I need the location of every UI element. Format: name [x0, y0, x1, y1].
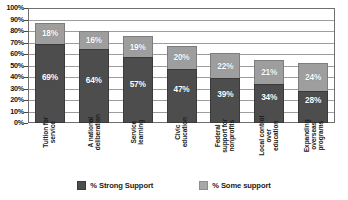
- y-axis-tick-label: 100%: [6, 4, 24, 11]
- x-axis-category-label: Local controlovereducation: [245, 125, 293, 171]
- bar-value-label: 24%: [305, 73, 321, 82]
- bar-value-label: 34%: [261, 93, 277, 102]
- y-axis: 0%10%20%30%40%50%60%70%80%90%100%: [0, 0, 28, 131]
- y-axis-tick-label: 30%: [10, 85, 24, 92]
- bar-group[interactable]: 24%28%: [298, 63, 328, 123]
- bar-segment-some-support[interactable]: 16%: [79, 31, 109, 49]
- x-axis-label-line: Expanding: [302, 119, 309, 152]
- x-axis-category-label: Civiceducation: [158, 125, 206, 171]
- x-axis-category-label: Expandingoverseasprograms: [289, 125, 337, 171]
- legend-swatch-strong: [77, 181, 86, 190]
- bar-value-label: 16%: [86, 36, 102, 45]
- bar-segment-some-support[interactable]: 22%: [210, 53, 240, 78]
- x-axis-label-line: overseas: [309, 119, 316, 152]
- bar-segment-some-support[interactable]: 18%: [35, 23, 65, 44]
- bar-group[interactable]: 20%47%: [167, 46, 197, 123]
- legend-label: % Strong Support: [90, 181, 153, 190]
- y-axis-tick-label: 10%: [10, 108, 24, 115]
- x-axis-label-line: learning: [138, 120, 145, 145]
- bar-value-label: 39%: [217, 90, 233, 99]
- y-axis-tick-label: 0%: [14, 119, 24, 126]
- bar-value-label: 21%: [261, 68, 277, 77]
- bar-segment-some-support[interactable]: 20%: [167, 46, 197, 69]
- bar-value-label: 28%: [305, 96, 321, 105]
- y-axis-tick-label: 80%: [10, 27, 24, 34]
- chart-legend: % Strong Support% Some support: [0, 178, 348, 192]
- bar-segment-strong-support[interactable]: 57%: [123, 57, 153, 123]
- x-axis-label-line: programs: [317, 119, 324, 152]
- bar-value-label: 69%: [42, 73, 58, 82]
- x-axis-label-line: nonprofits: [229, 119, 236, 153]
- x-axis-labels: Tuition forserviceA nationaldeliberation…: [28, 125, 335, 173]
- y-axis-tick-label: 70%: [10, 39, 24, 46]
- bar-segment-strong-support[interactable]: 64%: [79, 49, 109, 123]
- bar-segment-strong-support[interactable]: 47%: [167, 69, 197, 123]
- x-axis-label-line: service: [50, 117, 57, 148]
- bar-value-label: 19%: [130, 43, 146, 52]
- bar-value-label: 47%: [173, 85, 189, 94]
- y-axis-tick-label: 60%: [10, 50, 24, 57]
- bar-group[interactable]: 18%69%: [35, 23, 65, 123]
- legend-item[interactable]: % Strong Support: [77, 181, 153, 190]
- bar-value-label: 22%: [217, 62, 233, 71]
- y-axis-tick-label: 20%: [10, 96, 24, 103]
- stacked-bar-chart: 0%10%20%30%40%50%60%70%80%90%100% 18%69%…: [0, 0, 348, 200]
- x-axis-category-label: Federalsupport fornonprofits: [201, 125, 249, 171]
- bar-group[interactable]: 22%39%: [210, 53, 240, 123]
- y-axis-tick-label: 40%: [10, 73, 24, 80]
- x-axis-category-label: Servicelearning: [114, 125, 162, 171]
- bar-value-label: 57%: [130, 80, 146, 89]
- bar-segment-some-support[interactable]: 24%: [298, 63, 328, 91]
- bar-segment-some-support[interactable]: 21%: [254, 60, 284, 84]
- legend-swatch-some: [199, 181, 208, 190]
- bar-segment-some-support[interactable]: 19%: [123, 36, 153, 58]
- bar-group[interactable]: 16%64%: [79, 31, 109, 123]
- y-axis-tick-label: 50%: [10, 62, 24, 69]
- x-axis-label-line: deliberation: [94, 114, 101, 150]
- bar-series-container: 18%69%16%64%19%57%20%47%22%39%21%34%24%2…: [28, 8, 335, 123]
- bar-value-label: 18%: [42, 29, 58, 38]
- bar-group[interactable]: 21%34%: [254, 60, 284, 123]
- bar-segment-strong-support[interactable]: 69%: [35, 44, 65, 123]
- bar-value-label: 64%: [86, 76, 102, 85]
- x-axis-label-line: A national: [87, 114, 94, 150]
- legend-label: % Some support: [212, 181, 271, 190]
- bar-segment-strong-support[interactable]: 39%: [210, 78, 240, 123]
- bar-segment-strong-support[interactable]: 28%: [298, 91, 328, 123]
- x-axis-category-label: A nationaldeliberation: [70, 125, 118, 171]
- x-axis-category-label: Tuition forservice: [26, 125, 74, 171]
- x-axis-label-line: education: [273, 116, 280, 156]
- y-axis-tick-mark: [24, 123, 28, 124]
- bar-group[interactable]: 19%57%: [123, 36, 153, 123]
- bar-value-label: 20%: [173, 53, 189, 62]
- y-axis-tick-label: 90%: [10, 16, 24, 23]
- x-axis-label-line: education: [182, 117, 189, 147]
- legend-item[interactable]: % Some support: [199, 181, 271, 190]
